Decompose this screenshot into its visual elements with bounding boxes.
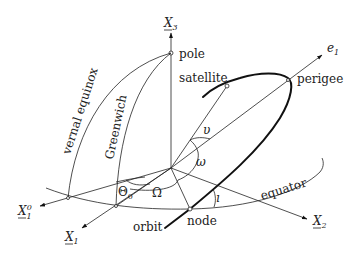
perigee-label: perigee xyxy=(297,72,343,86)
theta0-arc-2 xyxy=(126,180,150,185)
node-point xyxy=(188,207,192,211)
pole-label: pole xyxy=(179,47,205,61)
greenwich-meridian xyxy=(116,53,171,206)
theta0-label: Θ0 xyxy=(118,185,133,201)
perigee-point xyxy=(287,79,290,82)
orbit-label: orbit xyxy=(133,220,162,234)
inclination-label: ı xyxy=(216,191,220,205)
orbital-elements-diagram: X3 pole satellite perigee e1 vernal equi… xyxy=(0,0,354,258)
orbit-path xyxy=(165,74,291,229)
greenwich-label: Greenwich xyxy=(102,93,129,161)
true-anomaly-arc xyxy=(190,138,210,140)
Omega-label: Ω xyxy=(152,186,162,200)
nu-label: υ xyxy=(203,123,210,137)
satellite-label: satellite xyxy=(179,71,228,85)
e1-label: e1 xyxy=(327,41,339,57)
equinox-point xyxy=(67,197,70,200)
node-label: node xyxy=(187,214,217,228)
greenwich-equator-point xyxy=(115,205,118,208)
omega-label: ω xyxy=(196,155,206,169)
equator-label: equator xyxy=(259,176,309,203)
